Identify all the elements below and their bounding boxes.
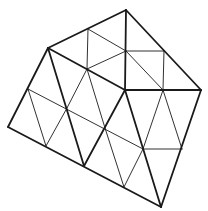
lattice-svg: [0, 0, 208, 211]
thin-edge: [143, 90, 163, 149]
thin-lines-group: [28, 29, 182, 187]
thin-edge: [163, 90, 182, 149]
thin-edge: [105, 128, 124, 187]
thick-edge: [125, 10, 126, 90]
thick-edge: [125, 90, 161, 207]
thick-edge: [8, 48, 48, 127]
thin-edge: [124, 149, 143, 187]
thin-edge: [126, 51, 163, 90]
thick-edge: [48, 10, 126, 48]
triangular-lattice-figure: [0, 0, 208, 211]
thin-edge: [163, 51, 164, 90]
thick-edge: [8, 127, 161, 207]
thin-edge: [46, 108, 67, 146]
thick-edge: [161, 90, 201, 207]
thin-edge: [28, 89, 46, 146]
thick-lines-group: [8, 10, 201, 207]
thin-edge: [88, 29, 126, 51]
thin-edge: [28, 89, 143, 149]
thick-edge: [84, 90, 125, 166]
thin-edge: [87, 29, 88, 69]
thin-edge: [87, 51, 126, 69]
thin-edge: [67, 69, 87, 108]
